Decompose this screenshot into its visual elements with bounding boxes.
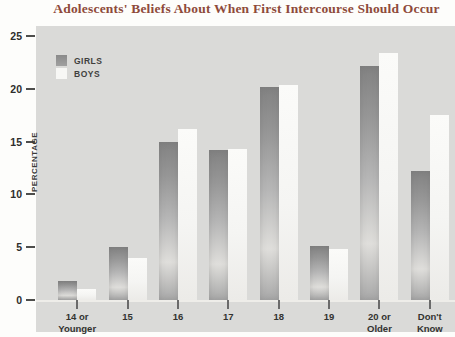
x-tick-mark — [76, 300, 78, 309]
y-tick: 5 — [16, 240, 35, 254]
bar-group-8: Don't Know — [405, 26, 455, 300]
legend: GIRLSBOYS — [56, 54, 102, 80]
x-tick-mark — [177, 300, 179, 309]
y-tick-label: 5 — [16, 241, 22, 253]
girls-bar — [411, 171, 430, 300]
boys-bar — [279, 85, 298, 300]
y-axis-title: PERCENTAGE — [30, 132, 39, 192]
bar-group-2: 15 — [102, 26, 152, 300]
boys-bar — [228, 149, 247, 300]
x-tick-mark — [278, 300, 280, 309]
y-tick: 20 — [10, 82, 35, 96]
x-tick-mark — [328, 300, 330, 309]
y-tick: 0 — [16, 293, 35, 307]
girls-bar — [58, 281, 77, 300]
boys-bar — [128, 258, 147, 300]
y-tick-mark — [26, 35, 35, 37]
boys-bar — [329, 249, 348, 300]
legend-item-boys: BOYS — [56, 67, 102, 80]
legend-item-girls: GIRLS — [56, 54, 102, 67]
bar-group-4: 17 — [203, 26, 253, 300]
plot-area: 14 or Younger151617181920 or OlderDon't … — [52, 26, 455, 300]
bar-group-5: 18 — [254, 26, 304, 300]
girls-bar — [360, 66, 379, 300]
y-tick-mark — [26, 299, 35, 301]
legend-swatch-boys — [56, 68, 67, 79]
y-tick-label: 25 — [10, 30, 22, 42]
y-tick-label: 20 — [10, 83, 22, 95]
boys-bar — [379, 53, 398, 300]
boys-bar — [77, 289, 96, 300]
legend-swatch-girls — [56, 55, 67, 66]
bar-group-7: 20 or Older — [354, 26, 404, 300]
boys-bar — [178, 129, 197, 300]
bar-group-3: 16 — [153, 26, 203, 300]
x-tick-mark — [429, 300, 431, 309]
figure-page: { "title": "Adolescents' Beliefs About W… — [0, 0, 455, 337]
y-tick: 25 — [10, 29, 35, 43]
girls-bar — [109, 247, 128, 300]
girls-bar — [260, 87, 279, 300]
x-tick-mark — [127, 300, 129, 309]
x-axis-line — [36, 300, 455, 302]
x-tick-mark — [227, 300, 229, 309]
y-tick-mark — [26, 246, 35, 248]
boys-bar — [430, 115, 449, 300]
legend-label: GIRLS — [74, 56, 102, 66]
y-tick-label: 0 — [16, 294, 22, 306]
girls-bar — [159, 142, 178, 300]
bar-group-6: 19 — [304, 26, 354, 300]
chart-title: Adolescents' Beliefs About When First In… — [40, 1, 453, 17]
y-tick-label: 10 — [10, 188, 22, 200]
y-tick-mark — [26, 193, 35, 195]
legend-label: BOYS — [74, 69, 100, 79]
x-axis-label: Don't Know — [398, 311, 455, 334]
girls-bar — [209, 150, 228, 300]
x-tick-mark — [378, 300, 380, 309]
y-tick-label: 15 — [10, 136, 22, 148]
girls-bar — [310, 246, 329, 300]
y-tick-mark — [26, 88, 35, 90]
